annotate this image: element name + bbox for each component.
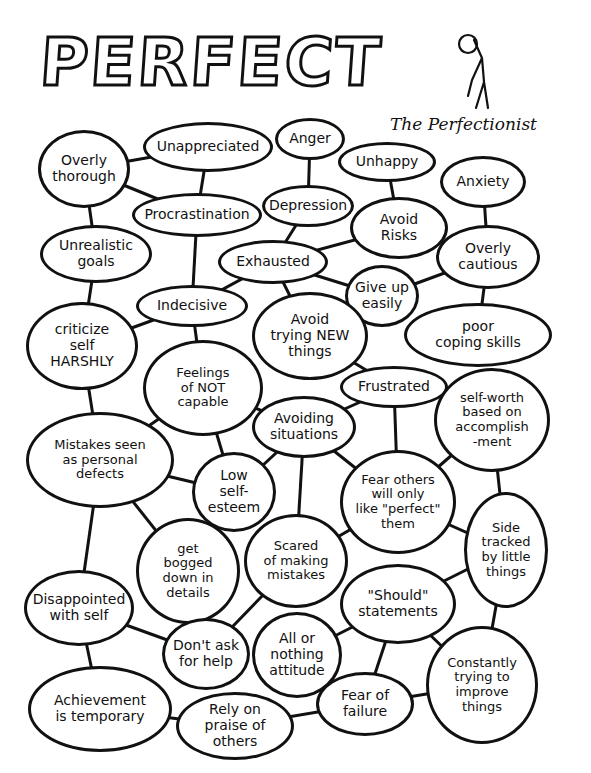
node-overly-cautious: Overly cautious	[436, 225, 540, 289]
node-overly-thorough: Overly thorough	[38, 130, 130, 208]
node-constantly-improve: Constantly trying to improve things	[426, 626, 538, 744]
stick-figure-hunched-icon	[452, 30, 502, 115]
node-exhausted: Exhausted	[218, 240, 328, 284]
node-side-tracked: Side tracked by little things	[464, 492, 548, 608]
node-dont-ask-for-help: Don't ask for help	[162, 618, 250, 690]
node-rely-on-praise: Rely on praise of others	[176, 692, 294, 760]
page-title: PERFECT	[38, 30, 385, 96]
node-get-bogged-down: get bogged down in details	[136, 518, 240, 624]
node-unhappy: Unhappy	[338, 142, 436, 182]
node-disappointed-with-self: Disappointed with self	[24, 570, 134, 646]
node-anger: Anger	[275, 118, 345, 160]
node-fear-of-failure: Fear of failure	[316, 672, 414, 736]
node-achievement-temporary: Achievement is temporary	[28, 666, 172, 752]
node-avoid-trying-new-things: Avoid trying NEW things	[252, 292, 368, 380]
node-anxiety: Anxiety	[440, 156, 526, 208]
node-scared-of-making-mistakes: Scared of making mistakes	[244, 514, 348, 608]
subtitle: The Perfectionist	[390, 114, 537, 134]
node-procrastination: Procrastination	[132, 193, 262, 237]
node-frustrated: Frustrated	[340, 366, 448, 408]
node-should-statements: "Should" statements	[340, 564, 456, 644]
node-depression: Depression	[262, 185, 354, 227]
node-fear-others: Fear others will only like "perfect" the…	[340, 450, 456, 554]
perfectionist-mind-map: PERFECT The Perfectionist Overly thoroug…	[0, 0, 591, 773]
node-criticize-self-harshly: criticize self HARSHLY	[26, 302, 138, 390]
node-unappreciated: Unappreciated	[143, 122, 273, 172]
node-indecisive: Indecisive	[136, 285, 248, 327]
node-unrealistic-goals: Unrealistic goals	[40, 225, 152, 283]
node-avoiding-situations: Avoiding situations	[252, 396, 356, 458]
node-self-worth: self-worth based on accomplish -ment	[434, 368, 550, 472]
node-avoid-risks: Avoid Risks	[350, 197, 448, 259]
node-feelings-of-not-capable: Feelings of NOT capable	[143, 340, 263, 436]
node-poor-coping-skills: poor coping skills	[404, 303, 552, 367]
node-mistakes-seen: Mistakes seen as personal defects	[26, 412, 174, 508]
